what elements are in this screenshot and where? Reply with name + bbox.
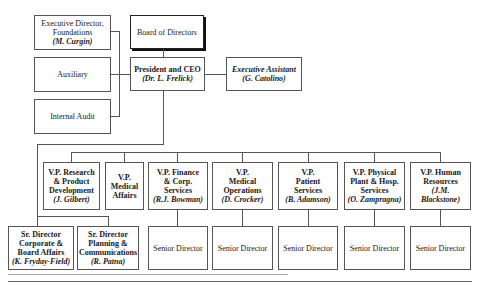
box-title: & Corp.	[164, 177, 192, 186]
box-title: Auxiliary	[57, 70, 88, 79]
president-ceo-box: President and CEO (Dr. L. Frelick)	[130, 57, 205, 91]
box-title: Corporate &	[19, 239, 63, 248]
connector-line	[308, 210, 309, 227]
box-title: V.P. Finance	[157, 168, 199, 177]
internal-audit-box: Internal Audit	[34, 99, 111, 134]
box-title: Services	[294, 186, 322, 195]
vp-physical-plant-box: V.P. Physical Plant & Hosp. Services (O.…	[344, 162, 405, 210]
box-person: (R. Patna)	[91, 257, 125, 266]
box-person: (Dr. L. Frelick)	[142, 74, 193, 83]
box-person: (J.M.	[432, 186, 450, 195]
connector-line	[124, 152, 125, 162]
box-title: Senior Director	[218, 244, 268, 253]
box-title: Sr. Director	[88, 230, 128, 239]
connector-line	[37, 144, 164, 145]
connector-line	[111, 31, 120, 32]
box-person: Blackstone)	[421, 195, 460, 204]
senior-director-box: Senior Director	[410, 226, 471, 270]
vp-research-box: V.P. Research & Product Development (J. …	[43, 162, 100, 210]
vp-human-resources-box: V.P. Human Resources (J.M. Blackstone)	[410, 162, 471, 210]
box-person: (O. Zampragna)	[348, 195, 402, 204]
senior-director-box: Senior Director	[148, 226, 208, 270]
box-title: V.P. Human	[420, 168, 461, 177]
sr-director-corporate-box: Sr. Director Corporate & Board Affairs (…	[8, 226, 74, 270]
box-title: Executive Director,	[41, 19, 103, 28]
executive-assistant-box: Executive Assistant (G. Catolino)	[226, 57, 302, 91]
box-title: Board of Directors	[137, 28, 197, 37]
box-title: Medical	[229, 177, 257, 186]
sr-director-planning-box: Sr. Director Planning & Communications (…	[77, 226, 139, 270]
box-person: (B. Adamson)	[285, 195, 331, 204]
box-title: Foundations	[53, 28, 93, 37]
senior-director-box: Senior Director	[278, 226, 338, 270]
box-title: Board Affairs	[18, 248, 65, 257]
box-title: Development	[49, 186, 94, 195]
box-title: & Product	[53, 177, 89, 186]
box-person: (R.J. Bowman)	[153, 195, 203, 204]
divider-line	[8, 281, 472, 282]
auxiliary-box: Auxiliary	[34, 57, 111, 92]
senior-director-box: Senior Director	[344, 226, 405, 270]
vp-medical-affairs-box: V.P. Medical Affairs	[105, 162, 144, 210]
box-title: V.P. Physical	[353, 168, 396, 177]
connector-line	[163, 91, 164, 144]
connector-line	[111, 74, 130, 75]
box-title: Services	[164, 186, 192, 195]
connector-line	[163, 49, 164, 57]
box-title: Senior Director	[153, 244, 203, 253]
connector-line	[205, 74, 226, 75]
connector-line	[374, 152, 375, 162]
box-title: Patient	[296, 177, 320, 186]
box-person: (D. Crocker)	[222, 195, 264, 204]
box-person: (G. Catolino)	[242, 74, 286, 83]
box-title: Planning &	[88, 239, 127, 248]
box-title: V.P.	[236, 168, 249, 177]
connector-line	[111, 116, 120, 117]
divider-line	[8, 274, 288, 275]
senior-director-box: Senior Director	[212, 226, 273, 270]
connector-line	[37, 216, 109, 217]
board-of-directors-box: Board of Directors	[130, 15, 204, 49]
box-title: Resources	[423, 177, 458, 186]
vp-medical-operations-box: V.P. Medical Operations (D. Crocker)	[212, 162, 273, 210]
box-title: Senior Director	[350, 244, 400, 253]
box-title: Affairs	[113, 191, 137, 200]
connector-line	[71, 152, 441, 153]
box-title: President and CEO	[134, 65, 201, 74]
connector-line	[71, 152, 72, 162]
box-title: Services	[361, 186, 389, 195]
connector-line	[374, 210, 375, 227]
connector-line	[177, 210, 178, 227]
box-title: Plant & Hosp.	[350, 177, 399, 186]
vp-patient-services-box: V.P. Patient Services (B. Adamson)	[278, 162, 338, 210]
box-title: Senior Director	[283, 244, 333, 253]
box-title: V.P.	[302, 168, 315, 177]
box-person: (J. Gilbert)	[53, 195, 89, 204]
exec-director-foundations-box: Executive Director, Foundations (M. Curg…	[34, 15, 111, 50]
box-title: Sr. Director	[21, 230, 61, 239]
box-title: V.P. Research	[48, 168, 94, 177]
connector-line	[440, 210, 441, 227]
connector-line	[440, 152, 441, 162]
box-title: Executive Assistant	[232, 65, 296, 74]
connector-line	[177, 152, 178, 162]
box-title: Senior Director	[416, 244, 466, 253]
box-title: Operations	[223, 186, 261, 195]
box-title: Internal Audit	[50, 112, 95, 121]
box-title: V.P.	[118, 173, 131, 182]
box-title: Communications	[79, 248, 137, 257]
box-person: (M. Curgin)	[52, 37, 92, 46]
connector-line	[242, 152, 243, 162]
box-title: Medical	[111, 182, 139, 191]
box-person: (K. Fryday-Field)	[12, 257, 70, 266]
vp-finance-box: V.P. Finance & Corp. Services (R.J. Bowm…	[148, 162, 208, 210]
connector-line	[308, 152, 309, 162]
connector-line	[242, 210, 243, 227]
